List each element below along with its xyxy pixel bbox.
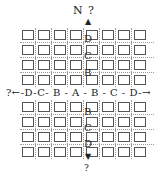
horizontal-axis-label: ?←-D-C- B - A - B - C - D-→ xyxy=(6,87,151,98)
axis-label-top-d: D xyxy=(84,33,92,44)
axis-label-top-b: B xyxy=(84,67,91,78)
axis-label-bottom-c: C xyxy=(84,122,92,133)
down-arrow-icon: ▼ xyxy=(85,152,91,161)
axis-label-bottom-b: B xyxy=(84,106,91,117)
south-label: ? xyxy=(84,163,89,173)
axis-label-bottom-d: D xyxy=(84,138,92,149)
north-label: N ? xyxy=(73,4,95,17)
up-arrow-icon: ▲ xyxy=(85,17,91,26)
axis-label-top-c: C xyxy=(84,50,92,61)
